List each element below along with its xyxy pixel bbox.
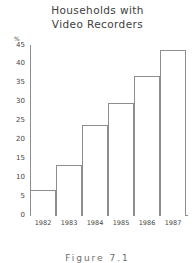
x-tick-label-1986: 1986 [134, 219, 160, 227]
x-tick-label-1982: 1982 [30, 219, 56, 227]
y-tick-label-40: 40 [3, 59, 25, 67]
bar-1983 [56, 165, 82, 216]
x-tick-label-1984: 1984 [82, 219, 108, 227]
bar-1986 [134, 76, 160, 216]
bar-1982 [30, 190, 56, 216]
y-tick-label-10: 10 [3, 173, 25, 181]
y-tick-label-25: 25 [3, 116, 25, 124]
bar-1985 [108, 103, 134, 216]
bar-1984 [82, 125, 108, 216]
y-tick-label-5: 5 [3, 192, 25, 200]
x-tick-label-1987: 1987 [160, 219, 186, 227]
bars-container [30, 45, 186, 216]
y-tick-label-15: 15 [3, 154, 25, 162]
x-tick-label-1985: 1985 [108, 219, 134, 227]
bar-1987 [160, 50, 186, 216]
y-tick-label-20: 20 [3, 135, 25, 143]
figure-caption: Figure 7.1 [0, 253, 195, 263]
y-tick-label-35: 35 [3, 78, 25, 86]
chart-title-line-1: Households with [0, 3, 195, 17]
y-tick-label-45: 45 [3, 41, 25, 49]
y-tick-label-30: 30 [3, 97, 25, 105]
x-tick-label-1983: 1983 [56, 219, 82, 227]
chart-title-line-2: Video Recorders [0, 17, 195, 31]
chart-title: Households with Video Recorders [0, 3, 195, 31]
y-tick-label-0: 0 [3, 211, 25, 219]
